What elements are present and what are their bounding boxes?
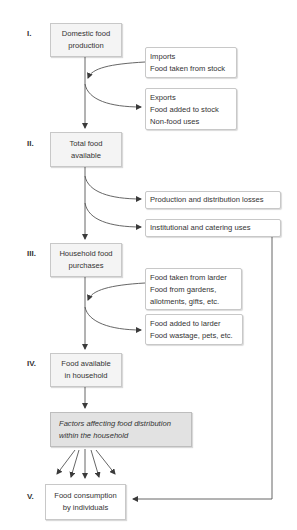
side-box-line: Institutional and catering uses (150, 222, 276, 234)
flow-connectors (0, 0, 297, 530)
side-box-line: allotments, gifts, etc. (150, 296, 237, 308)
side-box-line: Production and distribution losses (150, 194, 276, 206)
side-box-imports: Imports Food taken from stock (145, 47, 237, 78)
side-box-larder-inflow: Food taken from larder Food from gardens… (145, 268, 242, 310)
stage-label-line: in household (61, 370, 110, 382)
side-box-line: Food added to stock (150, 104, 232, 116)
stage-box-individual-consumption: Food consumption by individuals (45, 484, 126, 520)
stage-numeral-3: III. (27, 249, 36, 258)
stage-numeral-4: IV. (27, 359, 36, 368)
side-box-institutional-uses: Institutional and catering uses (145, 219, 281, 237)
stage-label-line: Domestic food (62, 28, 111, 40)
stage-label-line: production (62, 40, 111, 52)
stage-box-household-purchases: Household food purchases (50, 243, 122, 277)
side-box-line: Food taken from larder (150, 272, 237, 284)
stage-label-line: Household food (59, 248, 112, 260)
side-box-production-losses: Production and distribution losses (145, 191, 281, 209)
stage-numeral-2: II. (27, 139, 34, 148)
stage-label-line: available (70, 150, 103, 162)
side-box-exports: Exports Food added to stock Non-food use… (145, 88, 237, 130)
stage-numeral-1: I. (27, 29, 31, 38)
stage-label-line: by individuals (54, 502, 116, 514)
stage-box-food-in-household: Food available in household (50, 353, 122, 387)
factors-label-line: within the household (59, 430, 183, 442)
stage-label-line: purchases (59, 260, 112, 272)
side-box-line: Food added to larder (150, 318, 238, 330)
side-box-line: Imports (150, 51, 232, 63)
side-box-larder-outflow: Food added to larder Food wastage, pets,… (145, 314, 243, 345)
side-box-line: Food taken from stock (150, 63, 232, 75)
side-box-line: Non-food uses (150, 116, 232, 128)
factors-distribution-box: Factors affecting food distribution with… (50, 412, 192, 447)
side-box-line: Food wastage, pets, etc. (150, 330, 238, 342)
side-box-line: Exports (150, 92, 232, 104)
factors-label-line: Factors affecting food distribution (59, 418, 183, 430)
stage-numeral-5: V. (27, 492, 34, 501)
stage-label-line: Food available (61, 358, 110, 370)
stage-box-domestic-production: Domestic food production (50, 23, 122, 57)
stage-label-line: Food consumption (54, 490, 116, 502)
stage-box-total-food-available: Total food available (50, 132, 122, 167)
stage-label-line: Total food (70, 138, 103, 150)
side-box-line: Food from gardens, (150, 284, 237, 296)
